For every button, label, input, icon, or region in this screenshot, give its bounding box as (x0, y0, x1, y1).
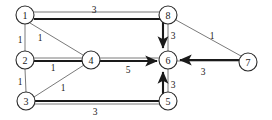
node-3[interactable]: 3 (17, 92, 35, 110)
node-4-label: 4 (89, 55, 94, 66)
route-1-8-6 (34, 19, 163, 48)
node-1-label: 1 (23, 10, 28, 21)
node-7[interactable]: 7 (239, 53, 257, 71)
graph-canvas: 1 2 3 4 5 6 7 (0, 0, 272, 120)
node-4[interactable]: 4 (82, 51, 100, 69)
edge-weight-8-6: 3 (171, 31, 176, 41)
edge-3-4 (34, 65, 84, 97)
node-8-label: 8 (166, 10, 171, 21)
node-1[interactable]: 1 (16, 6, 34, 24)
node-5-label: 5 (166, 96, 171, 107)
edge-weight-6-5: 3 (171, 80, 176, 90)
edge-weight-3-4: 1 (61, 83, 66, 93)
node-2-label: 2 (23, 55, 28, 66)
edge-8-7 (176, 20, 241, 56)
node-6[interactable]: 6 (159, 51, 177, 69)
node-3-label: 3 (24, 96, 29, 107)
route-3-5-6 (35, 72, 163, 101)
graph-diagram: 1 2 3 4 5 6 7 (0, 0, 272, 120)
edge-weight-1-2: 1 (18, 35, 23, 45)
node-8[interactable]: 8 (159, 6, 177, 24)
edge-weight-2-3: 1 (18, 77, 23, 87)
edge-weight-8-7: 1 (210, 31, 215, 41)
node-5[interactable]: 5 (159, 92, 177, 110)
edge-weight-7-6: 3 (201, 67, 206, 77)
edge-weight-3-5: 3 (93, 107, 98, 117)
edge-weight-4-6: 5 (126, 65, 131, 75)
node-7-label: 7 (246, 57, 251, 68)
edge-weight-2-4: 1 (51, 63, 56, 73)
node-6-label: 6 (166, 55, 171, 66)
edge-2-3 (25, 69, 26, 92)
edge-weight-1-4: 1 (38, 33, 43, 43)
node-2[interactable]: 2 (16, 51, 34, 69)
edge-weight-1-8: 3 (92, 5, 97, 15)
thin-edge-layer (25, 12, 241, 104)
